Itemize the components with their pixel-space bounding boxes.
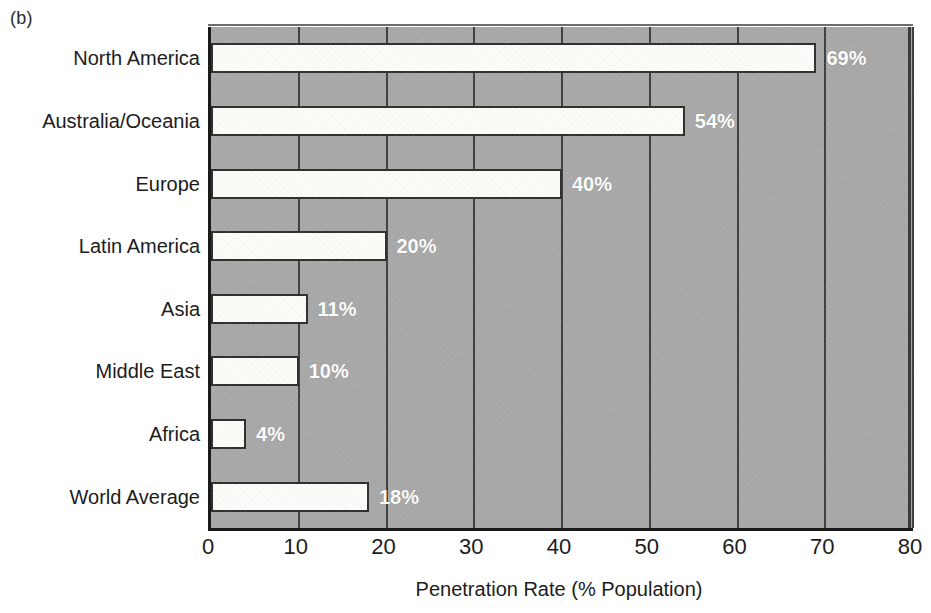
x-tick-label: 80 bbox=[898, 534, 922, 560]
gridline bbox=[473, 27, 475, 528]
x-tick-label: 30 bbox=[459, 534, 483, 560]
bar-value-label: 54% bbox=[695, 106, 735, 136]
category-axis-labels: North AmericaAustralia/OceaniaEuropeLati… bbox=[0, 0, 208, 613]
category-label: Africa bbox=[8, 419, 208, 449]
bar bbox=[211, 43, 816, 73]
bar-value-label: 4% bbox=[256, 419, 285, 449]
x-tick-label: 0 bbox=[202, 534, 214, 560]
category-label: Latin America bbox=[8, 231, 208, 261]
category-label: Australia/Oceania bbox=[8, 106, 208, 136]
bar bbox=[211, 106, 685, 136]
bar bbox=[211, 294, 308, 324]
bar bbox=[211, 231, 387, 261]
gridline bbox=[386, 27, 388, 528]
gridline bbox=[912, 27, 914, 528]
chart-figure: (b) 69%54%40%20%11%10%4%18% North Americ… bbox=[0, 0, 931, 613]
gridline bbox=[737, 27, 739, 528]
gridline bbox=[824, 27, 826, 528]
plot-area: 69%54%40%20%11%10%4%18% bbox=[208, 27, 913, 531]
x-tick-label: 40 bbox=[547, 534, 571, 560]
category-label: Middle East bbox=[8, 356, 208, 386]
gridline bbox=[298, 27, 300, 528]
bar-value-label: 40% bbox=[572, 169, 612, 199]
x-tick-label: 20 bbox=[371, 534, 395, 560]
x-tick-label: 10 bbox=[284, 534, 308, 560]
bar-value-label: 10% bbox=[309, 356, 349, 386]
category-label: North America bbox=[8, 43, 208, 73]
x-tick-label: 50 bbox=[635, 534, 659, 560]
plot-top-rule bbox=[208, 24, 913, 26]
bar-value-label: 18% bbox=[379, 482, 419, 512]
category-label: Asia bbox=[8, 294, 208, 324]
plot-right-border bbox=[908, 27, 911, 528]
bar bbox=[211, 419, 246, 449]
bar-value-label: 69% bbox=[826, 43, 866, 73]
x-tick-label: 70 bbox=[810, 534, 834, 560]
bar-value-label: 11% bbox=[318, 294, 357, 324]
bar-value-label: 20% bbox=[397, 231, 437, 261]
gridline bbox=[649, 27, 651, 528]
category-label: Europe bbox=[8, 169, 208, 199]
x-tick-label: 60 bbox=[722, 534, 746, 560]
x-axis-title: Penetration Rate (% Population) bbox=[208, 578, 910, 601]
bar bbox=[211, 169, 562, 199]
bar bbox=[211, 482, 369, 512]
category-label: World Average bbox=[8, 482, 208, 512]
gridline bbox=[561, 27, 563, 528]
bar bbox=[211, 356, 299, 386]
